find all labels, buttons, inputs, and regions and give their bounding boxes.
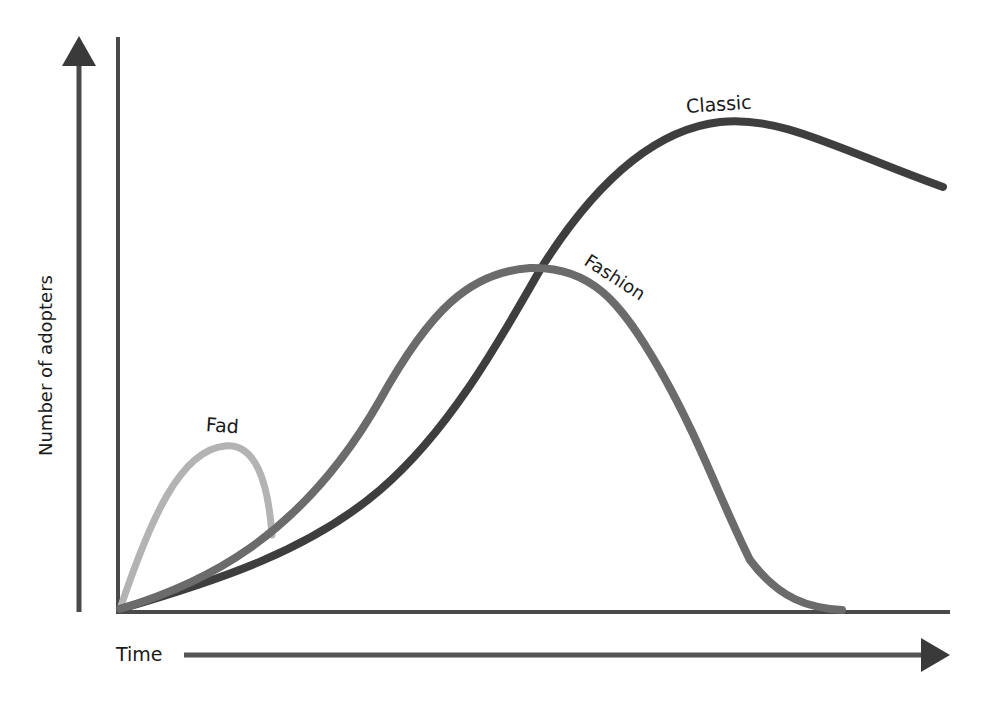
y-axis-label: Number of adopters	[35, 275, 56, 456]
fashion-label: Fashion	[581, 250, 649, 305]
y-arrow-head-icon	[62, 36, 96, 66]
time-arrow-head-icon	[921, 638, 950, 672]
classic-label: Classic	[685, 90, 752, 117]
classic-curve	[120, 121, 943, 609]
x-axis-label: Time	[115, 643, 163, 665]
adoption-curves-diagram: Fad Fashion Classic Number of adopters T…	[0, 0, 984, 705]
fashion-curve	[120, 268, 842, 610]
fad-label: Fad	[205, 413, 239, 437]
